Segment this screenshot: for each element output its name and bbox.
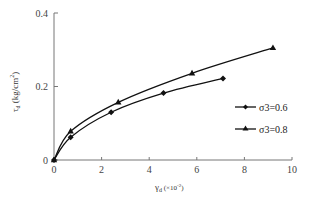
y-tick-label: 0.4 — [36, 8, 49, 19]
line-chart: 00.20.4 0246810 τd (kg/cm2) γd (×10-2) σ… — [0, 0, 310, 203]
legend-item-sigma3-0.8: σ3=0.8 — [235, 124, 288, 135]
diamond-marker-icon — [243, 105, 248, 110]
series-line-0 — [54, 78, 223, 160]
y-axis-ticks: 00.20.4 — [36, 8, 59, 166]
x-tick-label: 10 — [287, 164, 297, 175]
legend: σ3=0.6 σ3=0.8 — [235, 102, 288, 135]
x-axis-title: γd (×10-2) — [154, 182, 184, 193]
y-tick-label: 0 — [43, 155, 48, 166]
svg-text:σ3=0.8: σ3=0.8 — [259, 124, 288, 135]
series-layer — [51, 44, 276, 163]
triangle-marker-icon — [270, 44, 276, 50]
x-tick-label: 2 — [99, 164, 104, 175]
x-tick-label: 6 — [194, 164, 199, 175]
x-tick-label: 8 — [242, 164, 247, 175]
triangle-marker-icon — [243, 126, 249, 131]
diamond-marker-icon — [108, 109, 114, 115]
y-tick-label: 0.2 — [36, 81, 49, 92]
y-axis-title: τd (kg/cm2) — [9, 72, 21, 112]
x-tick-label: 4 — [147, 164, 152, 175]
svg-text:σ3=0.6: σ3=0.6 — [259, 102, 288, 113]
diamond-marker-icon — [160, 90, 166, 96]
x-tick-label: 0 — [52, 164, 57, 175]
series-line-1 — [54, 48, 273, 160]
legend-item-sigma3-0.6: σ3=0.6 — [235, 102, 288, 113]
diamond-marker-icon — [220, 75, 226, 81]
